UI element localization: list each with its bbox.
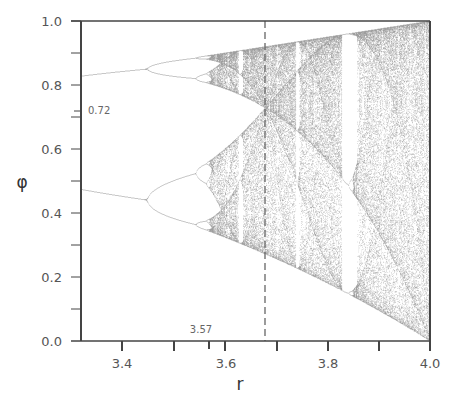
- x-tick-label: 3.4: [112, 356, 133, 371]
- y-tick-label: 0.6: [41, 142, 62, 157]
- annotation-072: 0.72: [88, 105, 110, 116]
- y-tick-label: 1.0: [41, 14, 62, 29]
- annotation-357: 3.57: [190, 324, 212, 335]
- y-tick-label: 0.8: [41, 78, 62, 93]
- y-tick-label: 0.2: [41, 270, 62, 285]
- x-tick-label: 3.8: [318, 356, 339, 371]
- x-tick-label: 3.6: [216, 356, 237, 371]
- y-axis-label: φ: [16, 172, 27, 192]
- bifurcation-chart: 1.0 0.8 0.6 0.4 0.2 0.0 3.4 3.6 3.8 4.0 …: [0, 0, 455, 404]
- x-axis-label: r: [237, 374, 244, 394]
- y-tick-label: 0.4: [41, 206, 62, 221]
- y-tick-label: 0.0: [41, 334, 62, 349]
- x-tick-label: 4.0: [420, 356, 441, 371]
- bifurcation-points: [81, 21, 431, 341]
